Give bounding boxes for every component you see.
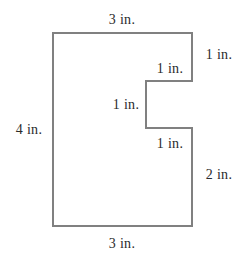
dimension-label-bottom: 3 in.	[109, 237, 135, 251]
dimension-label-right-top: 1 in.	[206, 48, 232, 62]
dimension-label-notch-left: 1 in.	[113, 98, 139, 112]
dimension-label-notch-bottom: 1 in.	[157, 137, 183, 151]
dimension-label-right-bottom: 2 in.	[206, 168, 232, 182]
dimension-label-left: 4 in.	[16, 123, 42, 137]
dimension-label-notch-top: 1 in.	[157, 62, 183, 76]
geometry-figure: 3 in. 4 in. 3 in. 1 in. 2 in. 1 in. 1 in…	[0, 0, 250, 263]
dimension-label-top: 3 in.	[109, 13, 135, 27]
